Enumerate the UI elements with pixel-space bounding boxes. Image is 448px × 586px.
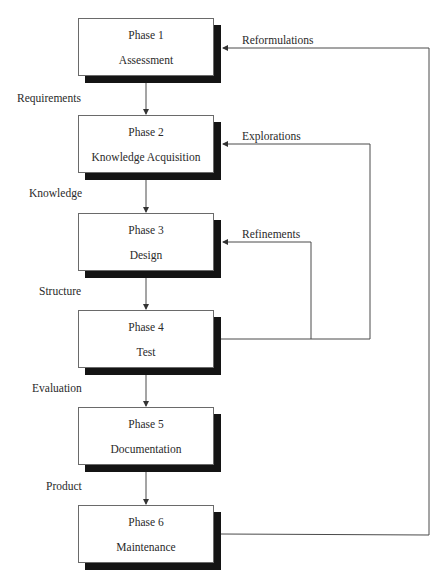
label-explorations: Explorations bbox=[242, 129, 301, 143]
phase-6-box[interactable]: Phase 6 Maintenance bbox=[78, 505, 214, 563]
phase-4-box[interactable]: Phase 4 Test bbox=[78, 310, 214, 368]
phase-3-number: Phase 3 bbox=[79, 223, 213, 237]
label-refinements: Refinements bbox=[242, 227, 300, 241]
phase-diagram: Phase 1 Assessment Phase 2 Knowledge Acq… bbox=[0, 0, 448, 586]
phase-4-name: Test bbox=[79, 345, 213, 359]
phase-5-number: Phase 5 bbox=[79, 417, 213, 431]
phase-5-box[interactable]: Phase 5 Documentation bbox=[78, 407, 214, 465]
phase-2-number: Phase 2 bbox=[79, 125, 213, 139]
phase-6-name: Maintenance bbox=[79, 540, 213, 554]
label-structure: Structure bbox=[39, 284, 81, 298]
phase-2-box[interactable]: Phase 2 Knowledge Acquisition bbox=[78, 115, 214, 173]
phase-5-name: Documentation bbox=[79, 442, 213, 456]
phase-4-number: Phase 4 bbox=[79, 320, 213, 334]
phase-2-name: Knowledge Acquisition bbox=[79, 150, 213, 164]
phase-3-box[interactable]: Phase 3 Design bbox=[78, 213, 214, 271]
arrow-reformulations bbox=[221, 48, 429, 535]
label-evaluation: Evaluation bbox=[32, 381, 82, 395]
label-product: Product bbox=[46, 479, 82, 493]
arrow-refinements bbox=[223, 242, 311, 339]
phase-3-name: Design bbox=[79, 248, 213, 262]
phase-1-number: Phase 1 bbox=[79, 28, 213, 42]
phase-1-box[interactable]: Phase 1 Assessment bbox=[78, 18, 214, 76]
phase-6-number: Phase 6 bbox=[79, 515, 213, 529]
phase-1-name: Assessment bbox=[79, 53, 213, 67]
label-reformulations: Reformulations bbox=[242, 33, 314, 47]
label-knowledge: Knowledge bbox=[29, 186, 82, 200]
label-requirements: Requirements bbox=[17, 91, 81, 105]
